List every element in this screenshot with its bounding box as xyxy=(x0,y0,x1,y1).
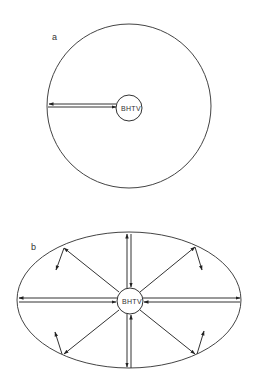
bhtv-label-b: BHTV xyxy=(122,298,142,305)
ray-right-arrows xyxy=(143,298,240,302)
bhtv-label-a: BHTV xyxy=(121,105,141,112)
panel-a: a BHTV xyxy=(47,24,211,188)
ray-down-arrows xyxy=(127,314,131,368)
panel-b: b BHTV xyxy=(17,232,241,368)
panel-b-label: b xyxy=(31,242,36,252)
ray-up-arrows xyxy=(127,234,131,288)
ray-lower-right-arrows xyxy=(140,310,204,354)
diagram-canvas: a BHTV b BHTV xyxy=(0,0,279,379)
ray-left-arrows xyxy=(19,298,117,302)
ray-upper-left-arrows xyxy=(56,248,119,292)
ray-upper-right-arrows xyxy=(140,247,202,292)
ray-lower-left-arrows xyxy=(55,310,119,354)
panel-a-label: a xyxy=(52,32,57,42)
